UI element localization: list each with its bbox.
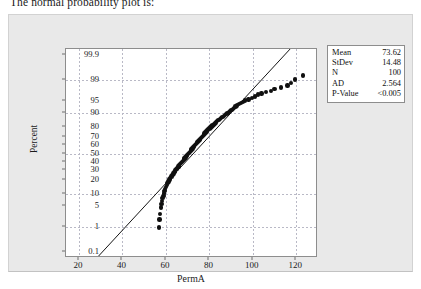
statistic-value: 2.564	[382, 79, 401, 89]
y-axis-tick-mark	[62, 111, 65, 112]
y-axis-tick-mark	[62, 125, 65, 126]
y-axis-tick-label: 1	[95, 222, 99, 231]
x-axis-tick-label: 60	[160, 260, 169, 270]
y-axis-tick-label: 0.1	[88, 246, 99, 255]
y-axis-tick-label: 5	[95, 200, 99, 209]
y-axis-tick-label: 99	[90, 74, 99, 83]
data-point	[301, 73, 305, 77]
statistic-row: AD2.564	[332, 79, 401, 89]
y-axis-tick-mark	[62, 193, 65, 194]
y-axis-tick-label: 20	[90, 175, 99, 184]
y-axis-tick-mark	[62, 100, 65, 101]
statistic-key: Mean	[332, 48, 351, 58]
plot-area	[65, 48, 317, 257]
y-axis-tick-label: 30	[90, 165, 99, 174]
statistic-value: 100	[388, 68, 401, 78]
y-axis-tick-label: 10	[90, 189, 99, 198]
x-axis-tick-label: 80	[204, 260, 213, 270]
y-axis-tick-mark	[62, 160, 65, 161]
x-axis-tick-label: 100	[245, 260, 259, 270]
statistic-row: Mean73.62	[332, 48, 401, 58]
data-point	[279, 85, 283, 89]
y-axis-tick-mark	[62, 169, 65, 170]
y-axis-tick-mark	[62, 135, 65, 136]
data-point	[272, 87, 276, 91]
y-axis-tick-mark	[62, 226, 65, 227]
y-axis-tick-label: 95	[90, 96, 99, 105]
x-axis-label: PermA	[65, 273, 317, 284]
y-axis-tick-mark	[62, 54, 65, 55]
data-point	[264, 90, 268, 94]
statistic-key: StDev	[332, 58, 353, 68]
y-axis-tick-mark	[62, 204, 65, 205]
data-points	[66, 49, 316, 256]
y-axis-tick-mark	[62, 144, 65, 145]
statistics-legend: Mean73.62StDev14.48N100AD2.564P-Value<0.…	[327, 45, 405, 103]
data-point	[157, 217, 161, 221]
figure-caption: The normal probability plot is:	[10, 0, 154, 8]
statistic-key: AD	[332, 79, 344, 89]
y-axis-tick-mark	[62, 152, 65, 153]
y-axis-tick-label: 99.9	[84, 50, 99, 59]
y-axis-tick-mark	[62, 250, 65, 251]
statistic-key: N	[332, 68, 338, 78]
x-axis-tick-mark	[251, 257, 252, 260]
x-axis-tick-mark	[295, 257, 296, 260]
statistic-row: StDev14.48	[332, 58, 401, 68]
statistic-key: P-Value	[332, 89, 359, 99]
data-point	[293, 77, 297, 81]
x-axis-tick-label: 40	[117, 260, 126, 270]
data-point	[158, 212, 162, 216]
y-axis-label: Percent	[29, 125, 39, 153]
statistic-value: 73.62	[382, 48, 401, 58]
y-axis-tick-mark	[62, 179, 65, 180]
x-axis-tick-mark	[208, 257, 209, 260]
y-axis-tick-label: 70	[90, 132, 99, 141]
y-axis-tick-label: 40	[90, 156, 99, 165]
x-axis-tick-label: 120	[289, 260, 303, 270]
statistic-value: 14.48	[382, 58, 401, 68]
x-axis-tick-mark	[78, 257, 79, 260]
statistic-value: <0.005	[377, 89, 401, 99]
y-axis-tick-label: 60	[90, 140, 99, 149]
statistic-row: N100	[332, 68, 401, 78]
statistic-row: P-Value<0.005	[332, 89, 401, 99]
y-axis-tick-label: 90	[90, 108, 99, 117]
x-axis-tick-mark	[164, 257, 165, 260]
y-axis-tick-label: 80	[90, 121, 99, 130]
data-point	[157, 225, 161, 229]
x-axis-tick-mark	[121, 257, 122, 260]
normal-probability-plot-figure: 0.115102030405060708090959999.9 20406080…	[8, 14, 413, 272]
y-axis-tick-mark	[62, 78, 65, 79]
x-axis-tick-label: 20	[74, 260, 83, 270]
y-axis-tick-label: 50	[90, 148, 99, 157]
data-point	[289, 81, 293, 85]
